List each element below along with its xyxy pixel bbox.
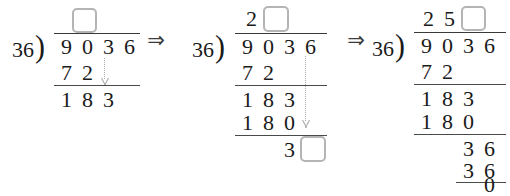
- dividend-digit: 9: [56, 34, 77, 60]
- remainder-digit: 3: [279, 137, 300, 163]
- remainder-answer-box-2-1[interactable]: [300, 136, 326, 162]
- subtraction-rule-1: [414, 84, 506, 85]
- dividend-digit: 0: [77, 34, 98, 60]
- subtract-digit: 0: [458, 109, 479, 135]
- division-bracket-icon: ): [35, 31, 45, 63]
- divisor-dividend-row: 36): [372, 31, 406, 61]
- subtract-digit: 7: [416, 59, 437, 85]
- subtract-row-1: 72: [416, 59, 458, 85]
- dividend-digit: 3: [98, 34, 119, 60]
- dividend-row: 9036: [56, 34, 140, 60]
- long-division-worksheet: 36) 9036 72 183 ⇒ 2 36): [0, 0, 510, 196]
- dividend-digit: 6: [119, 34, 140, 60]
- quotient-row-2: 2: [241, 6, 262, 32]
- dividend-digit: 9: [237, 34, 258, 60]
- subtract-row-1: 72: [56, 60, 98, 86]
- division-panel-step-1: 36) 9036 72 183: [0, 0, 140, 196]
- subtract-digit: 2: [77, 60, 98, 86]
- subtract-digit: 0: [279, 110, 300, 136]
- remainder-digit: 8: [77, 87, 98, 113]
- divisor-dividend-row: 36): [192, 32, 226, 62]
- division-bracket-icon: ): [215, 31, 225, 63]
- dividend-row: 9036: [416, 33, 500, 59]
- subtract-row-2: 180: [237, 110, 300, 136]
- subtract-digit: 8: [437, 109, 458, 135]
- divisor-value: 36: [372, 34, 394, 64]
- subtract-digit: 1: [237, 110, 258, 136]
- subtract-digit: 7: [237, 60, 258, 86]
- bring-down-arrow-icon: [300, 56, 311, 128]
- subtract-row-1: 72: [237, 60, 279, 86]
- divisor-value: 36: [12, 35, 34, 65]
- remainder-row-1: 183: [56, 87, 119, 113]
- remainder-digit: 3: [98, 87, 119, 113]
- step-arrow-2-icon: ⇒: [341, 26, 371, 54]
- subtraction-rule-1: [235, 85, 327, 86]
- subtraction-rule-2: [414, 134, 506, 135]
- divisor-dividend-row: 36): [12, 32, 46, 62]
- subtract-digit: 2: [258, 60, 279, 86]
- dividend-digit: 6: [479, 33, 500, 59]
- dividend-digit: 9: [416, 33, 437, 59]
- divisor-value: 36: [192, 35, 214, 65]
- division-bracket-icon: ): [395, 30, 405, 62]
- subtraction-rule-1: [54, 85, 140, 86]
- subtract-digit: 8: [258, 110, 279, 136]
- quotient-row-3: 25: [418, 6, 460, 32]
- subtract-digit: 2: [437, 59, 458, 85]
- final-remainder-row: 0: [479, 172, 500, 196]
- division-panel-step-2: 2 36) 9036 72 183 180: [178, 0, 343, 196]
- quotient-answer-box-3-1[interactable]: [461, 6, 486, 31]
- subtract-digit: 3: [458, 158, 479, 184]
- subtract-digit: 1: [416, 109, 437, 135]
- subtract-digit: 7: [56, 60, 77, 86]
- remainder-digit: 0: [479, 172, 500, 196]
- quotient-answer-box-1-1[interactable]: [72, 8, 97, 33]
- dividend-digit: 0: [437, 33, 458, 59]
- quotient-digit: 2: [418, 6, 439, 32]
- quotient-digit: 2: [241, 6, 262, 32]
- dividend-digit: 0: [258, 34, 279, 60]
- dividend-digit: 3: [458, 33, 479, 59]
- quotient-answer-box-2-1[interactable]: [263, 6, 289, 32]
- subtract-row-2: 180: [416, 109, 479, 135]
- dividend-digit: 3: [279, 34, 300, 60]
- step-arrow-1-icon: ⇒: [141, 26, 171, 54]
- remainder-row-2: 3: [279, 137, 300, 163]
- bring-down-arrow-icon: [99, 58, 110, 86]
- division-panel-step-3: 25 36) 9036 72 183 180 36: [370, 0, 510, 196]
- remainder-digit: 1: [56, 87, 77, 113]
- quotient-digit: 5: [439, 6, 460, 32]
